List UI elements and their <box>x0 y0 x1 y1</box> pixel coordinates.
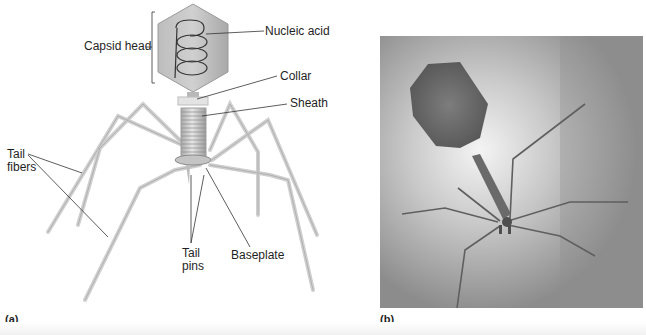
label-tail-pins-2: pins <box>182 260 204 273</box>
baseplate <box>175 155 211 165</box>
label-capsid-head: Capsid head <box>84 40 151 53</box>
label-nucleic-acid: Nucleic acid <box>265 25 330 38</box>
sheath <box>181 108 206 158</box>
bottom-edge <box>0 322 646 335</box>
phage-micrograph <box>380 36 643 308</box>
panel-a-diagram: Capsid head Nucleic acid Collar Sheath T… <box>0 0 340 335</box>
collar <box>178 97 208 105</box>
label-sheath: Sheath <box>290 97 328 110</box>
bacteriophage-schematic <box>0 0 340 335</box>
label-collar: Collar <box>280 70 311 83</box>
panel-b-micrograph <box>380 36 643 308</box>
label-tail-fibers-2: fibers <box>7 161 36 174</box>
tail-pins <box>186 165 190 185</box>
label-baseplate: Baseplate <box>231 249 284 262</box>
